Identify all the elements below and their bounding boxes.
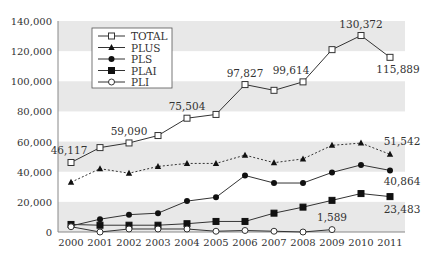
data-label: 97,827 (227, 67, 264, 79)
legend-marker (109, 68, 115, 74)
y-tick-label: 140,000 (11, 16, 52, 27)
x-tick-label: 2011 (377, 237, 402, 248)
data-point-marker (329, 169, 335, 175)
legend-label: TOTAL (131, 30, 168, 42)
data-point-marker (155, 133, 161, 139)
data-point-marker (300, 79, 306, 85)
data-point-marker (300, 180, 306, 186)
x-tick-label: 2003 (145, 237, 170, 248)
x-tick-label: 2002 (116, 237, 141, 248)
grid-band (58, 202, 405, 232)
data-point-marker (242, 218, 248, 224)
y-tick-label: 20,000 (17, 197, 52, 208)
data-point-marker (184, 115, 190, 121)
legend-label: PLS (131, 53, 152, 65)
x-tick-label: 2008 (290, 237, 315, 248)
data-label: 40,864 (384, 175, 421, 187)
line-chart: 020,00040,00060,00080,000100,000120,0001… (0, 0, 425, 264)
data-point-marker (358, 191, 364, 197)
data-point-marker (387, 54, 393, 60)
x-tick-label: 2007 (261, 237, 286, 248)
data-point-marker (213, 218, 219, 224)
data-point-marker (126, 212, 132, 218)
data-point-marker (358, 162, 364, 168)
data-point-marker (184, 198, 190, 204)
data-point-marker (242, 172, 248, 178)
data-point-marker (329, 47, 335, 53)
data-point-marker (329, 227, 335, 233)
legend-label: PLI (131, 76, 149, 88)
data-point-marker (271, 180, 277, 186)
data-label: 115,889 (376, 63, 419, 75)
data-point-marker (271, 210, 277, 216)
y-tick-label: 100,000 (11, 76, 52, 87)
data-label: 59,090 (111, 125, 148, 137)
data-point-marker (213, 228, 219, 234)
data-point-marker (271, 228, 277, 234)
legend-marker (109, 79, 115, 85)
data-point-marker (242, 82, 248, 88)
x-tick-label: 2009 (319, 237, 344, 248)
data-point-marker (213, 111, 219, 117)
data-point-marker (184, 226, 190, 232)
legend-label: PLUS (131, 42, 161, 54)
data-point-marker (126, 140, 132, 146)
data-point-marker (242, 227, 248, 233)
data-point-marker (155, 226, 161, 232)
y-tick-label: 60,000 (17, 137, 52, 148)
legend-marker (109, 33, 115, 39)
data-label: 23,483 (384, 203, 421, 215)
data-label: 130,372 (339, 18, 382, 30)
data-point-marker (97, 145, 103, 151)
data-point-marker (213, 194, 219, 200)
data-point-marker (271, 87, 277, 93)
legend-marker (109, 56, 115, 62)
data-point-marker (300, 204, 306, 210)
legend-label: PLAI (131, 65, 157, 77)
data-point-marker (126, 226, 132, 232)
x-tick-label: 2004 (174, 237, 199, 248)
y-tick-label: 120,000 (11, 46, 52, 57)
x-axis-ticks: 2000200120022003200420052006200720082009… (58, 237, 402, 248)
data-point-marker (358, 33, 364, 39)
legend: TOTALPLUSPLSPLAIPLI (92, 28, 172, 88)
data-point-marker (387, 194, 393, 200)
data-label: 46,117 (51, 144, 88, 156)
x-tick-label: 2006 (232, 237, 257, 248)
y-tick-label: 40,000 (17, 167, 52, 178)
x-tick-label: 2000 (58, 237, 83, 248)
data-point-marker (68, 179, 74, 185)
data-point-marker (387, 167, 393, 173)
data-point-marker (300, 229, 306, 235)
data-point-marker (97, 229, 103, 235)
y-axis-ticks: 020,00040,00060,00080,000100,000120,0001… (11, 16, 52, 238)
data-label: 99,614 (273, 64, 310, 76)
x-tick-label: 2001 (87, 237, 112, 248)
data-label: 51,542 (384, 135, 421, 147)
x-tick-label: 2005 (203, 237, 228, 248)
data-point-marker (97, 216, 103, 222)
data-label: 1,589 (317, 211, 347, 223)
data-point-marker (68, 224, 74, 230)
y-tick-label: 0 (46, 227, 52, 238)
y-tick-label: 80,000 (17, 106, 52, 117)
data-point-marker (155, 210, 161, 216)
data-point-marker (68, 159, 74, 165)
x-tick-label: 2010 (348, 237, 373, 248)
data-label: 75,504 (169, 100, 206, 112)
data-point-marker (97, 222, 103, 228)
data-point-marker (329, 197, 335, 203)
